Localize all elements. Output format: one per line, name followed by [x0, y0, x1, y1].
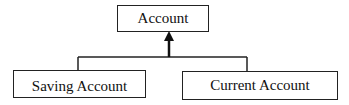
node-saving-account: Saving Account: [13, 70, 146, 98]
node-account: Account: [117, 5, 209, 32]
node-label: Saving Account: [32, 78, 127, 95]
arrowhead-icon: [164, 31, 174, 41]
node-label: Account: [138, 10, 189, 27]
node-label: Current Account: [210, 77, 310, 94]
node-current-account: Current Account: [182, 71, 338, 100]
